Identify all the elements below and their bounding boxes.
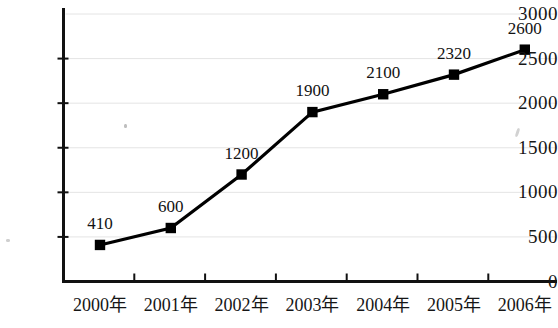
data-point-label: 2100 — [348, 64, 418, 81]
data-point-label: 1200 — [207, 145, 277, 162]
x-axis-tick-label: 2006年 — [488, 295, 558, 315]
x-axis-ticks — [134, 274, 488, 281]
x-axis-tick-label: 2005年 — [417, 295, 491, 315]
x-axis-tick-label: 2001年 — [134, 295, 208, 315]
y-axis-tick-label: 2500 — [502, 49, 558, 68]
x-axis-tick-label: 2002年 — [205, 295, 279, 315]
data-point-marker — [378, 89, 388, 99]
y-axis-tick-label: 1500 — [502, 138, 558, 157]
y-axis-tick-label: 0 — [502, 272, 558, 291]
x-axis-tick-label: 2004年 — [346, 295, 420, 315]
y-axis-tick-label: 500 — [502, 227, 558, 246]
data-point-label: 1900 — [277, 82, 347, 99]
data-point-marker — [95, 240, 105, 250]
data-point-label: 600 — [136, 198, 206, 215]
data-point-label: 2320 — [419, 45, 489, 62]
x-axis-tick-label: 2003年 — [275, 295, 349, 315]
y-axis-tick-label: 1000 — [502, 182, 558, 201]
data-point-label: 2600 — [490, 20, 558, 37]
y-axis-tick-label: 2000 — [502, 93, 558, 112]
scan-speck — [6, 239, 10, 242]
data-point-marker — [236, 169, 246, 179]
data-point-marker — [449, 69, 459, 79]
data-point-label: 410 — [65, 215, 135, 232]
line-chart: 050010001500200025003000 2000年2001年2002年… — [0, 0, 558, 328]
data-point-marker — [307, 107, 317, 117]
x-axis-tick-label: 2000年 — [63, 295, 137, 315]
scan-speck — [124, 124, 127, 128]
data-point-marker — [166, 223, 176, 233]
